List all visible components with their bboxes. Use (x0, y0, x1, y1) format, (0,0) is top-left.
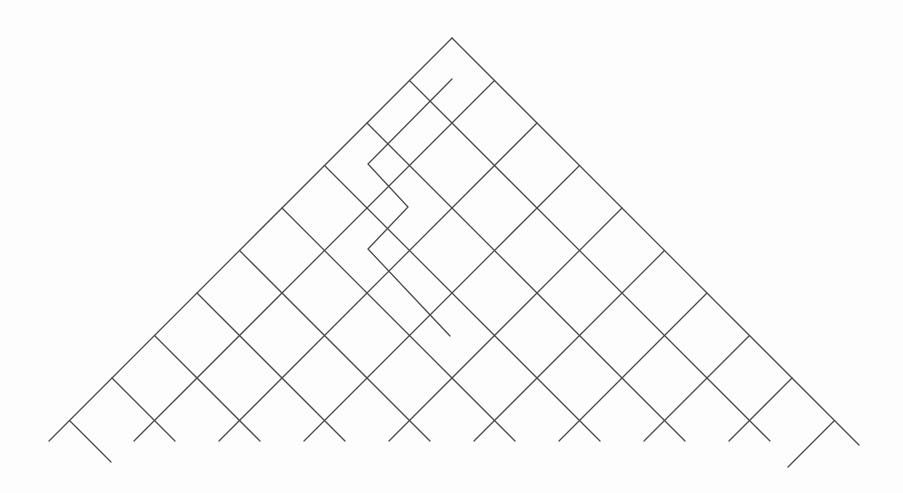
slash-line (474, 251, 665, 442)
backslash-line (325, 166, 601, 442)
slash-lines (49, 38, 835, 467)
backslash-line (282, 208, 515, 441)
slash-line (559, 293, 707, 441)
backslash-line (70, 421, 112, 463)
slash-line (389, 208, 622, 441)
zigzag-pipe-path (368, 79, 452, 336)
lattice-diagram (0, 0, 903, 493)
slash-line (134, 81, 495, 442)
backslash-line (410, 81, 771, 442)
slash-line (304, 166, 580, 442)
left-edge-line (49, 38, 452, 441)
backslash-lines (70, 38, 860, 462)
backslash-line (197, 293, 345, 441)
backslash-line (240, 251, 431, 442)
backslash-line (367, 123, 685, 441)
right-edge-line (452, 38, 859, 445)
backslash-line (155, 336, 261, 442)
diagram-canvas (0, 0, 903, 493)
slash-line (644, 336, 750, 442)
slash-line (788, 421, 835, 468)
slash-line (219, 123, 537, 441)
